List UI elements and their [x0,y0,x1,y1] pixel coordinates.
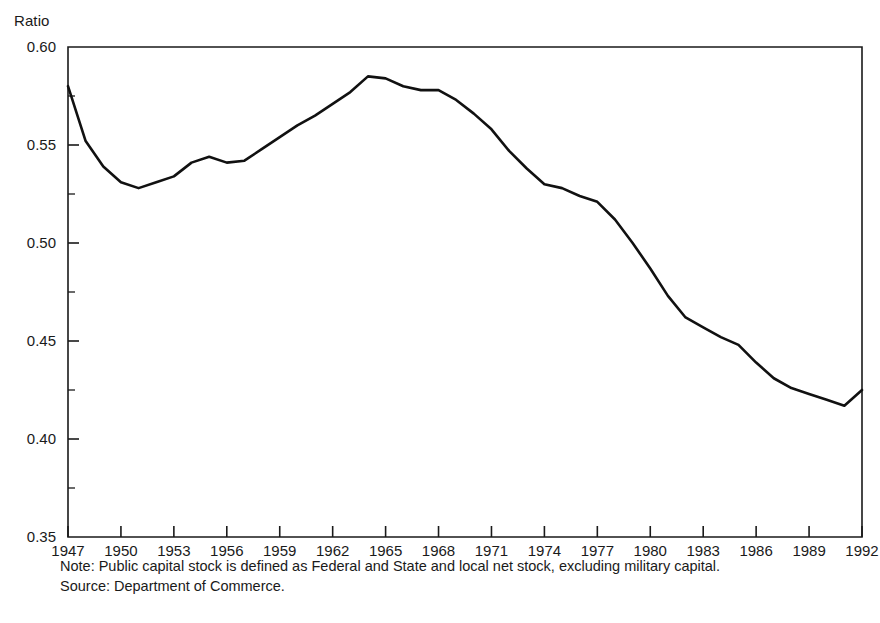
x-axis-tick-group: 1947195019531956195919621965196819711974… [51,526,878,559]
y-axis-tick-label: 0.55 [27,136,56,153]
y-axis-tick-label: 0.40 [27,430,56,447]
y-axis-tick-label: 0.60 [27,38,56,55]
line-chart-canvas: 0.600.550.500.450.400.35 194719501953195… [0,0,880,623]
footnote-block: Note: Public capital stock is defined as… [60,556,870,596]
y-axis-tick-label: 0.45 [27,332,56,349]
chart-figure: Ratio 0.600.550.500.450.400.35 194719501… [0,0,880,623]
footnote-note: Note: Public capital stock is defined as… [60,556,870,576]
y-axis-tick-label: 0.50 [27,234,56,251]
axis-frame [68,47,862,537]
y-axis-tick-group: 0.600.550.500.450.400.35 [27,38,79,545]
footnote-source: Source: Department of Commerce. [60,576,870,596]
data-series-line [68,76,862,405]
